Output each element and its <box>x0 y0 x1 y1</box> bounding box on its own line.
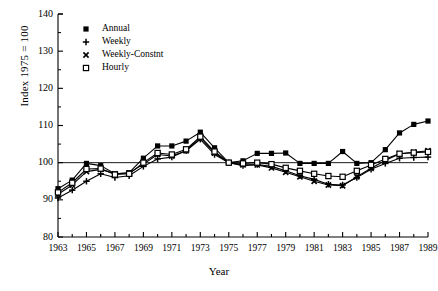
y-tick-label: 120 <box>27 82 53 93</box>
legend-marker-filled-square-icon <box>80 22 92 35</box>
legend-label: Weekly <box>102 35 131 48</box>
legend-label: Hourly <box>102 61 129 74</box>
chart-figure: Index 1975 = 100 Year 809010011012013014… <box>0 0 438 291</box>
series-hourly <box>55 134 430 195</box>
series-annual <box>55 118 430 191</box>
y-tick-label: 140 <box>27 8 53 19</box>
legend-marker-cross-icon <box>80 48 92 61</box>
x-tick-label: 1989 <box>411 243 438 253</box>
legend-marker-plus-icon <box>80 35 92 48</box>
y-tick-label: 90 <box>27 193 53 204</box>
y-tick-label: 130 <box>27 45 53 56</box>
y-tick-label: 80 <box>27 231 53 242</box>
legend-marker-open-square-icon <box>80 61 92 74</box>
series-weekly <box>55 136 431 201</box>
y-tick-label: 110 <box>27 119 53 130</box>
legend-label: Weekly-Constnt <box>102 48 164 61</box>
y-tick-label: 100 <box>27 156 53 167</box>
legend-label: Annual <box>102 22 130 35</box>
